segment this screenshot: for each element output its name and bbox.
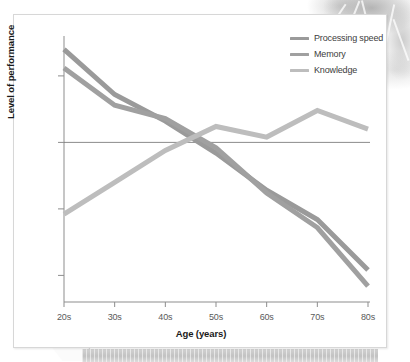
legend-label: Memory: [314, 49, 346, 60]
legend-label: Knowledge: [314, 65, 357, 76]
chart-legend: Processing speedMemoryKnowledge: [290, 33, 383, 76]
x-axis-title: Age (years): [14, 328, 388, 339]
legend-swatch-processing-speed: [290, 37, 309, 41]
x-tick-label: 40s: [150, 312, 180, 322]
data-series: [64, 49, 368, 286]
y-axis-title: Level of performance: [5, 0, 16, 119]
axes: [58, 36, 370, 307]
x-tick-label: 60s: [252, 312, 282, 322]
legend-item: Processing speed: [290, 33, 383, 44]
legend-swatch-memory: [290, 53, 309, 57]
backdrop-streak: [393, 19, 409, 61]
legend-item: Knowledge: [290, 65, 383, 76]
page-bottom-band: [82, 349, 378, 362]
x-tick-label: 70s: [302, 312, 332, 322]
x-tick-label: 80s: [353, 312, 383, 322]
figure-card: Level of performance 20s30s40s50s60s70s8…: [13, 14, 387, 348]
series-line-memory: [64, 68, 368, 286]
legend-swatch-knowledge: [290, 69, 309, 73]
series-line-knowledge: [64, 110, 368, 214]
x-tick-label: 30s: [100, 312, 130, 322]
legend-item: Memory: [290, 49, 383, 60]
legend-label: Processing speed: [314, 33, 383, 44]
x-tick-label: 50s: [201, 312, 231, 322]
x-tick-label: 20s: [49, 312, 79, 322]
